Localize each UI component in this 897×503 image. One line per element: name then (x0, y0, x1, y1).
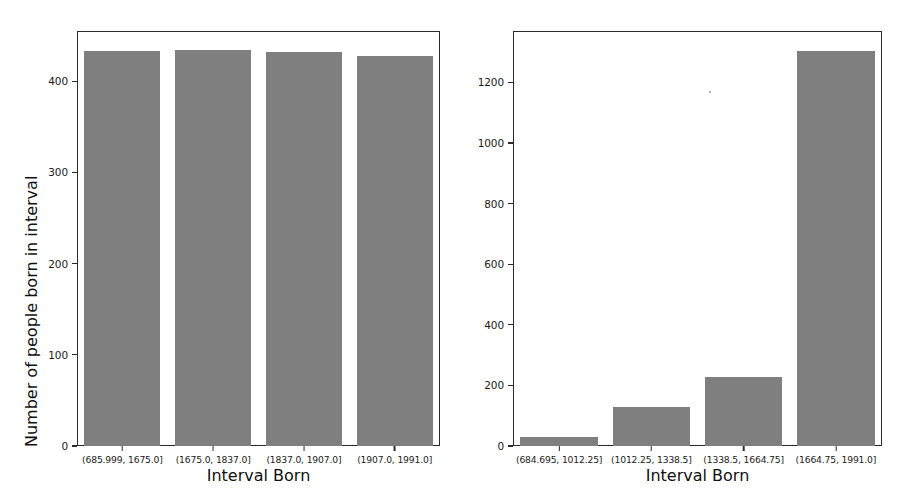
right-y-tick-mark (508, 203, 513, 204)
right-y-tick-mark (508, 82, 513, 83)
right-y-tick-label: 400 (484, 319, 508, 331)
right-x-tick-label: (1012.25, 1338.5] (611, 454, 692, 465)
right-x-tick-label: (684.695, 1012.25] (516, 454, 602, 465)
left-x-tick-mark (394, 446, 395, 451)
left-x-tick: (1837.0, 1907.0] (266, 446, 341, 465)
right-y-tick-mark (508, 264, 513, 265)
left-x-tick-label: (1675.0, 1837.0] (176, 454, 251, 465)
right-x-tick-label: (1664.75, 1991.0] (796, 454, 877, 465)
right-x-tick-mark (743, 446, 744, 451)
left-x-tick-label: (685.999, 1675.0] (82, 454, 163, 465)
left-y-tick: 100 (48, 349, 77, 361)
figure-canvas: 0100200300400 (685.999, 1675.0](1675.0, … (0, 0, 897, 503)
right-bar-chart-axes: 020040060080010001200 (684.695, 1012.25]… (513, 31, 882, 446)
left-x-tick: (1907.0, 1991.0] (357, 446, 432, 465)
left-x-tick: (685.999, 1675.0] (82, 446, 163, 465)
right-x-tick-label: (1338.5, 1664.75] (703, 454, 784, 465)
right-x-tick: (684.695, 1012.25] (516, 446, 602, 465)
left-y-tick-mark (72, 263, 77, 264)
left-bar-chart-axes: 0100200300400 (685.999, 1675.0](1675.0, … (77, 31, 440, 446)
left-y-tick-label: 0 (61, 440, 72, 452)
left-bar (357, 56, 433, 446)
right-y-tick-label: 600 (484, 258, 508, 270)
right-bar (797, 51, 874, 446)
right-x-tick: (1664.75, 1991.0] (796, 446, 877, 465)
stray-speck-artifact (709, 91, 711, 93)
left-y-tick-label: 200 (48, 258, 72, 270)
left-y-tick-mark (72, 445, 77, 446)
right-plot-area (513, 31, 882, 446)
right-y-tick-mark (508, 445, 513, 446)
right-x-tick-mark (651, 446, 652, 451)
right-bar (613, 407, 690, 446)
right-y-tick-mark (508, 324, 513, 325)
right-y-tick-label: 1200 (478, 76, 508, 88)
right-y-tick: 1000 (478, 137, 513, 149)
left-x-tick-mark (212, 446, 213, 451)
right-y-tick: 1200 (478, 76, 513, 88)
left-y-tick: 400 (48, 75, 77, 87)
left-bar (266, 52, 342, 446)
right-y-tick-label: 0 (497, 440, 508, 452)
left-y-tick-label: 400 (48, 75, 72, 87)
right-bar (705, 377, 782, 446)
left-y-tick: 0 (61, 440, 77, 452)
left-bar (175, 50, 251, 446)
left-x-axis-title: Interval Born (77, 466, 440, 485)
left-y-tick-label: 100 (48, 349, 72, 361)
left-y-tick-mark (72, 172, 77, 173)
left-y-axis-title: Number of people born in interval (22, 176, 41, 447)
left-x-tick-label: (1837.0, 1907.0] (266, 454, 341, 465)
right-y-tick: 800 (484, 198, 513, 210)
right-y-tick: 600 (484, 258, 513, 270)
left-x-tick-label: (1907.0, 1991.0] (357, 454, 432, 465)
right-y-tick: 200 (484, 379, 513, 391)
right-y-tick-mark (508, 142, 513, 143)
right-x-tick-mark (558, 446, 559, 451)
right-y-tick: 0 (497, 440, 513, 452)
right-y-tick-label: 1000 (478, 137, 508, 149)
right-y-tick-mark (508, 385, 513, 386)
left-y-tick-mark (72, 354, 77, 355)
left-plot-area (77, 31, 440, 446)
left-y-tick-mark (72, 81, 77, 82)
right-x-tick: (1338.5, 1664.75] (703, 446, 784, 465)
right-y-tick-label: 200 (484, 379, 508, 391)
right-y-tick-label: 800 (484, 198, 508, 210)
left-x-tick: (1675.0, 1837.0] (176, 446, 251, 465)
right-x-axis-title: Interval Born (513, 466, 882, 485)
right-x-tick: (1012.25, 1338.5] (611, 446, 692, 465)
left-x-tick-mark (303, 446, 304, 451)
left-y-tick: 300 (48, 166, 77, 178)
left-y-tick-label: 300 (48, 166, 72, 178)
left-y-tick: 200 (48, 258, 77, 270)
left-bar (84, 51, 160, 446)
right-x-tick-mark (835, 446, 836, 451)
left-x-tick-mark (122, 446, 123, 451)
right-y-tick: 400 (484, 319, 513, 331)
right-bar (520, 437, 597, 446)
